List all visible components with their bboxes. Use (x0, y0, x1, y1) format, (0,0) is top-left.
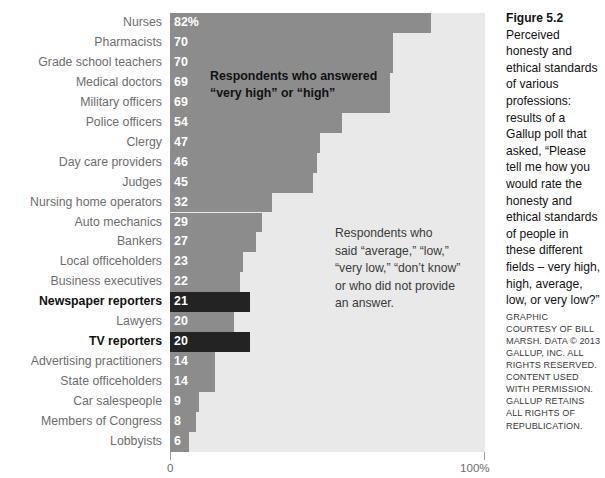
category-label: Police officers (86, 113, 162, 133)
bar-value-label: 8 (174, 412, 181, 432)
bar (170, 113, 342, 133)
axis-tick-mark-0 (170, 452, 171, 460)
category-label: Medical doctors (76, 73, 162, 93)
category-label: Clergy (126, 133, 162, 153)
bar-row: 20 (170, 332, 485, 352)
category-label: Lobbyists (110, 432, 162, 452)
bar-value-label: 20 (174, 332, 188, 352)
bar-value-label: 69 (174, 73, 188, 93)
category-label: Day care providers (59, 153, 162, 173)
category-label: Newspaper reporters (39, 292, 162, 312)
axis-tick-mark-100 (484, 452, 485, 460)
bar-row: 6 (170, 432, 485, 452)
figure-title: Figure 5.2 (506, 11, 563, 25)
bar-row: 8 (170, 412, 485, 432)
bar-row: 47 (170, 133, 485, 153)
bar-value-label: 82% (174, 13, 199, 33)
bar-value-label: 46 (174, 153, 188, 173)
caption-column: Figure 5.2 Perceived honesty and ethical… (506, 10, 601, 432)
bar-value-label: 9 (174, 392, 181, 412)
bar-row: 45 (170, 173, 485, 193)
bar-value-label: 6 (174, 432, 181, 452)
chart-plot-area: 6891414202021222327293245464754696970708… (170, 13, 485, 452)
figure-credit: GRAPHIC COURTESY OF BILL MARSH. DATA © 2… (506, 311, 601, 432)
annotation-very-high-high: Respondents who answered “very high” or … (210, 68, 377, 101)
category-label: Judges (122, 173, 162, 193)
bar-value-label: 47 (174, 133, 188, 153)
annotation-other-responses: Respondents who said “average,” “low,” “… (335, 225, 460, 313)
bar-value-label: 14 (174, 352, 188, 372)
bar-value-label: 27 (174, 232, 188, 252)
axis-tick-label-0: 0 (167, 461, 173, 474)
bar-value-label: 54 (174, 113, 188, 133)
category-label-column: NursesPharmacistsGrade school teachersMe… (0, 13, 166, 452)
bar (170, 173, 313, 193)
axis-tick-label-100: 100% (460, 461, 490, 474)
bar-row: 9 (170, 392, 485, 412)
bar-value-label: 22 (174, 272, 188, 292)
category-label: Military officers (80, 93, 162, 113)
bar-value-label: 21 (174, 292, 188, 312)
bar-value-label: 32 (174, 193, 188, 213)
category-label: Lawyers (116, 312, 162, 332)
category-label: Local officeholders (60, 252, 162, 272)
bar-row: 14 (170, 352, 485, 372)
figure-caption-body: Perceived honesty and ethical standards … (506, 28, 600, 308)
bar-value-label: 70 (174, 33, 188, 53)
bar-row: 14 (170, 372, 485, 392)
bar (170, 33, 393, 53)
category-label: State officeholders (60, 372, 162, 392)
category-label: TV reporters (89, 332, 162, 352)
category-label: Advertising practitioners (31, 352, 162, 372)
category-label: Business executives (51, 272, 162, 292)
bar-row: 70 (170, 33, 485, 53)
bar-row: 46 (170, 153, 485, 173)
category-label: Grade school teachers (38, 53, 162, 73)
figure-container: NursesPharmacistsGrade school teachersMe… (0, 0, 605, 478)
category-label: Nursing home operators (30, 193, 162, 213)
x-axis: 0 100% (170, 452, 485, 478)
category-label: Members of Congress (41, 412, 162, 432)
category-label: Car salespeople (73, 392, 162, 412)
bar-value-label: 70 (174, 53, 188, 73)
bar-value-label: 29 (174, 213, 188, 233)
category-label: Auto mechanics (75, 213, 163, 233)
bar-row: 32 (170, 193, 485, 213)
category-label: Nurses (123, 13, 162, 33)
bar-value-label: 23 (174, 252, 188, 272)
bar-value-label: 20 (174, 312, 188, 332)
category-label: Pharmacists (94, 33, 162, 53)
bar (170, 13, 431, 33)
bar (170, 153, 317, 173)
bar-row: 54 (170, 113, 485, 133)
caption-divider (497, 0, 498, 478)
bar-value-label: 14 (174, 372, 188, 392)
category-label: Bankers (117, 232, 162, 252)
bar-value-label: 69 (174, 93, 188, 113)
bar-row: 82% (170, 13, 485, 33)
bar-row: 20 (170, 312, 485, 332)
caption-text: Figure 5.2 Perceived honesty and ethical… (506, 10, 601, 309)
bar-value-label: 45 (174, 173, 188, 193)
bar (170, 133, 320, 153)
